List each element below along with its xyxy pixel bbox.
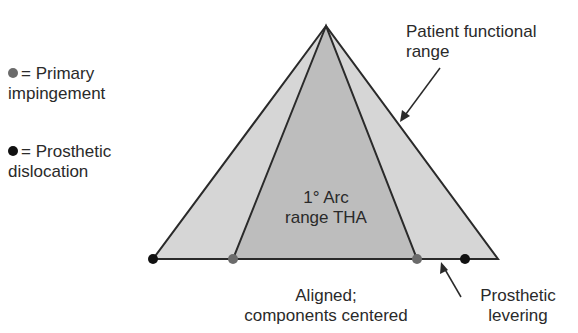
- legend-primary-line2: impingement: [8, 84, 105, 103]
- primary-impingement-dot-right: [412, 254, 422, 264]
- prosthetic-dislocation-dot-left: [148, 254, 158, 264]
- arc-range-label: 1° Arc range THA: [276, 188, 376, 228]
- gray-dot-icon: [8, 68, 18, 78]
- label-line: Aligned;: [295, 286, 356, 305]
- legend-primary-impingement: = Primary impingement: [8, 64, 105, 104]
- equals-sign: =: [21, 142, 31, 161]
- legend-primary-line1: Primary: [36, 64, 95, 83]
- equals-sign: =: [21, 64, 31, 83]
- primary-impingement-dot-left: [228, 254, 238, 264]
- label-line: components centered: [244, 306, 408, 325]
- label-line: range THA: [285, 208, 367, 227]
- label-line: 1° Arc: [303, 188, 349, 207]
- legend-dislocation-line2: dislocation: [8, 162, 88, 181]
- label-line: Patient functional: [406, 22, 536, 41]
- prosthetic-levering-arrow: [440, 262, 461, 297]
- label-line: range: [406, 42, 449, 61]
- legend-dislocation-line1: Prosthetic: [36, 142, 112, 161]
- label-line: levering: [488, 306, 548, 325]
- legend-prosthetic-dislocation: = Prosthetic dislocation: [8, 142, 111, 182]
- prosthetic-dislocation-dot-right: [460, 254, 470, 264]
- black-dot-icon: [8, 146, 18, 156]
- patient-functional-range-label: Patient functional range: [406, 22, 536, 62]
- prosthetic-levering-label: Prosthetic levering: [468, 286, 568, 326]
- aligned-label: Aligned; components centered: [216, 286, 436, 326]
- patient-range-arrow: [400, 68, 440, 122]
- label-line: Prosthetic: [480, 286, 556, 305]
